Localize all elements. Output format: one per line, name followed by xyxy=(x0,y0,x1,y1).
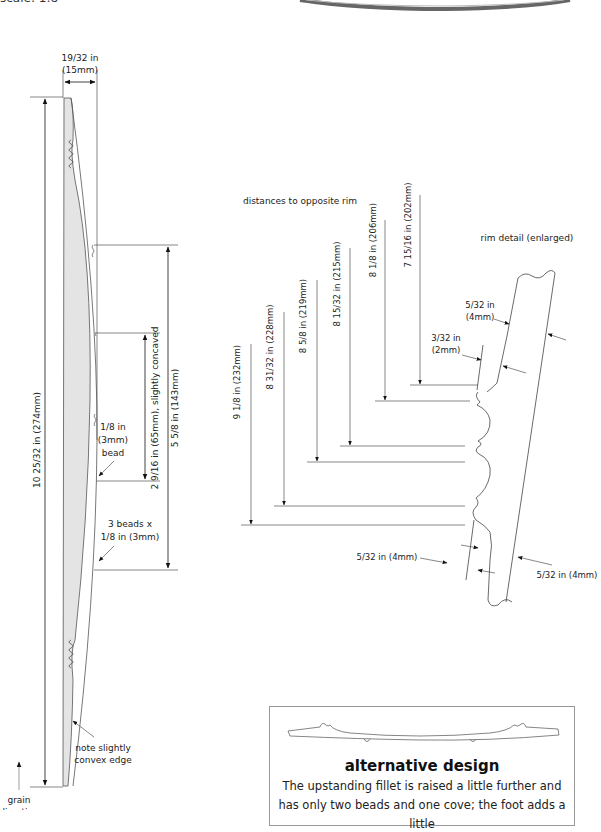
rim-dim-bottom-right: 5/32 in (4mm) xyxy=(537,570,598,580)
rim-detail-dimensions: 5/32 in (4mm) 3/32 in (2mm) 5/32 in (4mm… xyxy=(357,300,598,580)
concave-span-dimension: 2 9/16 in (65mm), slightly concaved xyxy=(96,327,160,490)
rim-dim-top-left-line2: (2mm) xyxy=(432,345,461,355)
thickness-label-line2: (15mm) xyxy=(62,65,98,75)
bead-label-line2: (3mm) xyxy=(98,435,128,445)
alternative-design-body: The upstanding fillet is raised a little… xyxy=(276,777,568,832)
rim-detail-title: rim detail (enlarged) xyxy=(481,233,574,243)
grain-line1: grain xyxy=(7,795,30,805)
distance-4: 8 15/32 in (215mm) xyxy=(332,241,342,326)
grain-line2: direction xyxy=(0,807,39,810)
alternative-design-title: alternative design xyxy=(270,757,574,775)
overall-length-dimension: 10 25/32 in (274mm) xyxy=(30,97,63,787)
bead-label-line1: 1/8 in xyxy=(100,422,126,432)
fillet-span-label: 5 5/8 in (143mm) xyxy=(170,369,180,448)
rim-dim-top-right-line1: 5/32 in xyxy=(465,300,495,310)
alternative-design-box: alternative design The upstanding fillet… xyxy=(269,706,575,826)
thickness-label-line1: 19/32 in xyxy=(61,53,98,63)
three-beads-line1: 3 beads x xyxy=(108,519,153,529)
three-beads-note: 3 beads x 1/8 in (3mm) xyxy=(99,519,159,561)
alternative-design-profile xyxy=(270,707,576,757)
grain-direction: grain direction xyxy=(0,762,39,810)
convex-note-line2: convex edge xyxy=(74,755,132,765)
bead-note: 1/8 in (3mm) bead xyxy=(98,422,128,476)
rim-dim-top-left-line1: 3/32 in xyxy=(431,333,461,343)
distance-2: 8 31/32 in (228mm) xyxy=(265,304,275,389)
bead-label-line3: bead xyxy=(102,448,124,458)
distance-6: 7 15/16 in (202mm) xyxy=(403,182,413,267)
distance-1: 9 1/8 in (232mm) xyxy=(232,345,242,419)
overall-length-label: 10 25/32 in (274mm) xyxy=(32,392,42,488)
rim-distances-title: distances to opposite rim xyxy=(243,196,357,206)
three-beads-line2: 1/8 in (3mm) xyxy=(101,532,160,542)
convex-edge-note: note slightly convex edge xyxy=(73,721,132,765)
top-tray-edge xyxy=(300,0,570,9)
distance-5: 8 1/8 in (206mm) xyxy=(368,203,378,277)
rim-dim-top-right-line2: (4mm) xyxy=(466,312,495,322)
rim-dim-bottom-left: 5/32 in (4mm) xyxy=(357,552,418,562)
convex-note-line1: note slightly xyxy=(75,743,131,753)
distance-3: 8 5/8 in (219mm) xyxy=(298,279,308,353)
side-profile-drawing xyxy=(63,98,97,786)
concave-span-label: 2 9/16 in (65mm), slightly concaved xyxy=(150,327,160,490)
